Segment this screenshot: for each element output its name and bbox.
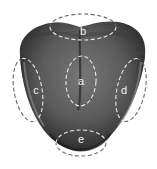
region-a-label: a: [78, 75, 85, 87]
region-c-label: c: [33, 84, 39, 96]
region-b-label: b: [80, 25, 86, 37]
region-d-label: d: [121, 84, 127, 96]
tongue-diagram: a b c d e: [0, 0, 157, 169]
region-e-label: e: [78, 133, 84, 145]
